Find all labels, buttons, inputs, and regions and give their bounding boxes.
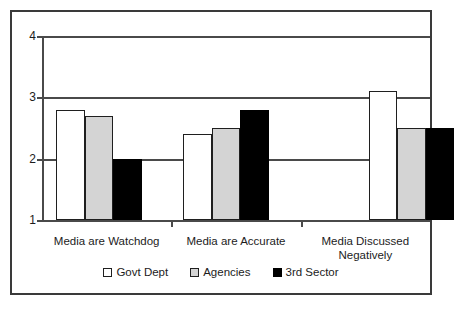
y-axis-tick-label: 3: [29, 90, 36, 104]
bar-agencies-1: [85, 116, 114, 220]
y-tick-mark-1: [37, 220, 42, 222]
chart-figure: 1234 Media are WatchdogMedia are Accurat…: [10, 10, 432, 295]
legend-swatch-icon: [190, 268, 199, 277]
y-axis-tick-label: 1: [29, 213, 36, 227]
legend-label: Govt Dept: [116, 266, 168, 278]
legend-label: 3rd Sector: [286, 266, 339, 278]
bar-govt-dept-3: [369, 91, 398, 220]
x-axis-category-label: Media are Watchdog: [42, 234, 171, 248]
legend-label: Agencies: [203, 266, 250, 278]
y-axis-tick-label: 4: [29, 29, 36, 43]
legend-item-agencies[interactable]: Agencies: [190, 266, 250, 278]
legend-swatch-icon: [103, 268, 112, 277]
gridline-1: [42, 220, 430, 222]
bar-3rd-sector-1: [113, 159, 142, 220]
bar-govt-dept-2: [183, 134, 212, 220]
bar-govt-dept-1: [56, 110, 85, 220]
x-axis-boundary-tick: [171, 220, 173, 227]
x-axis-label-line: Media are Accurate: [171, 234, 300, 248]
plot-area: 1234: [42, 36, 430, 220]
legend-item-3rd-sector[interactable]: 3rd Sector: [273, 266, 339, 278]
legend-swatch-icon: [273, 268, 282, 277]
legend-item-govt-dept[interactable]: Govt Dept: [103, 266, 168, 278]
bar-agencies-2: [212, 128, 241, 220]
bar-3rd-sector-3: [426, 128, 454, 220]
x-axis-label-line: Media Discussed: [301, 234, 430, 248]
bar-series-group: [42, 36, 430, 220]
bar-agencies-3: [397, 128, 426, 220]
x-axis-boundary-tick: [301, 220, 303, 227]
bar-3rd-sector-2: [240, 110, 269, 220]
x-axis-category-label: Media DiscussedNegatively: [301, 234, 430, 262]
y-axis-tick-label: 2: [29, 152, 36, 166]
x-axis-category-label: Media are Accurate: [171, 234, 300, 248]
chart-legend: Govt DeptAgencies3rd Sector: [12, 266, 430, 278]
x-axis-label-line: Media are Watchdog: [42, 234, 171, 248]
x-axis-label-line: Negatively: [301, 248, 430, 262]
